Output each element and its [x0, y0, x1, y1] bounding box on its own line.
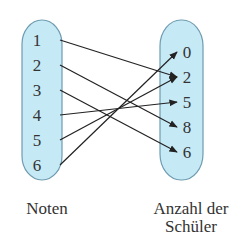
left-set-oval [22, 20, 62, 180]
left-set-label: Noten [12, 200, 82, 218]
right-element: 2 [183, 68, 192, 87]
right-element: 0 [183, 43, 192, 62]
right-set-label-line1: Anzahl der [146, 200, 236, 218]
right-element: 5 [183, 93, 192, 112]
left-element: 4 [33, 106, 42, 125]
left-element: 1 [33, 31, 42, 50]
right-set-oval [160, 20, 203, 180]
right-set-label-line2: Schüler [146, 218, 236, 236]
left-element: 3 [33, 81, 42, 100]
right-element: 6 [183, 143, 192, 162]
left-element: 2 [33, 56, 42, 75]
right-element: 8 [183, 118, 192, 137]
left-element: 5 [33, 131, 42, 150]
left-element: 6 [33, 156, 42, 175]
